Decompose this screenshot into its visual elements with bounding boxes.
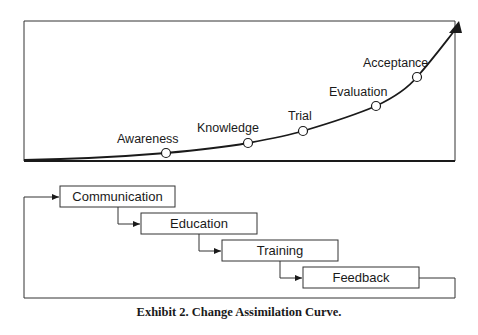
curve-frame	[24, 21, 455, 161]
stage-label-awareness: Awareness	[117, 132, 179, 146]
step-label-communication: Communication	[72, 189, 162, 204]
connector-communication-education	[118, 207, 140, 224]
process-flow: Communication Education Training Feedbac…	[24, 186, 455, 298]
connector-training-feedback	[280, 261, 302, 278]
stage-point-awareness	[162, 149, 171, 158]
stage-point-evaluation	[372, 102, 381, 111]
stage-point-trial	[299, 127, 308, 136]
stage-label-evaluation: Evaluation	[329, 85, 387, 99]
figure-caption: Exhibit 2. Change Assimilation Curve.	[137, 305, 342, 319]
assimilation-curve	[24, 30, 455, 160]
step-label-education: Education	[170, 216, 228, 231]
curve-panel: Awareness Knowledge Trial Evaluation Acc…	[24, 21, 462, 161]
diagram-canvas: Awareness Knowledge Trial Evaluation Acc…	[0, 0, 478, 335]
stage-label-trial: Trial	[288, 109, 312, 123]
step-label-feedback: Feedback	[332, 270, 390, 285]
step-label-training: Training	[257, 243, 303, 258]
stage-label-knowledge: Knowledge	[197, 121, 259, 135]
connector-education-training	[199, 234, 221, 251]
stage-point-knowledge	[244, 139, 253, 148]
stage-point-acceptance	[413, 73, 422, 82]
stage-label-acceptance: Acceptance	[363, 56, 428, 70]
